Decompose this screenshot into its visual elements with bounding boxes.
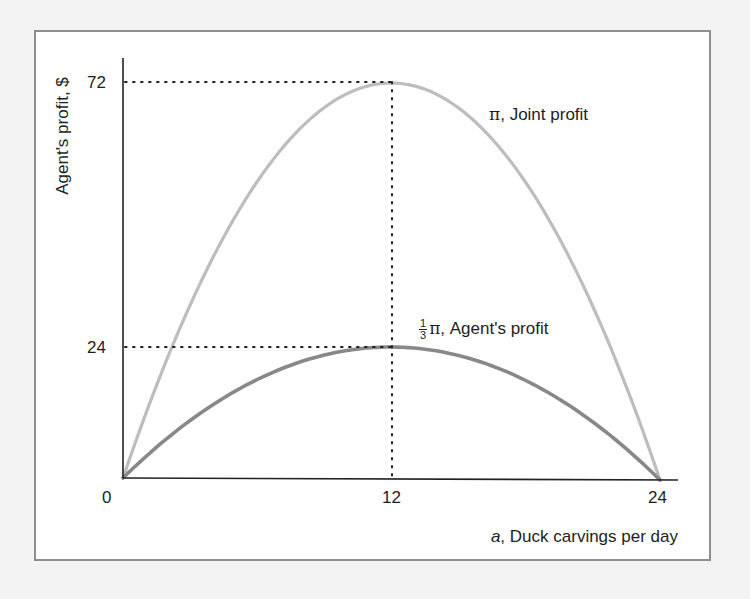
y-tick-72: 72 [87,74,106,91]
agent-profit-text: , Agent's profit [440,319,548,338]
joint-profit-label: π, Joint profit [489,106,588,123]
y-axis-label: Agent's profit, $ [54,77,71,195]
x-tick-12: 12 [382,489,401,506]
x-tick-24: 24 [648,489,667,506]
pi-symbol: π [429,318,440,338]
x-axis-label: a, Duck carvings per day [491,528,678,545]
agent-profit-label: 1 3 π, Agent's profit [419,318,548,341]
chart-plot-area [0,0,750,599]
joint-profit-text: , Joint profit [500,105,588,124]
x-axis-label-text: , Duck carvings per day [500,527,678,546]
x-tick-0: 0 [102,489,111,506]
y-tick-24: 24 [87,339,106,356]
one-third-fraction: 1 3 [419,318,427,341]
pi-symbol: π [489,104,500,124]
x-axis-variable: a [491,527,500,546]
x-axis [123,478,678,480]
